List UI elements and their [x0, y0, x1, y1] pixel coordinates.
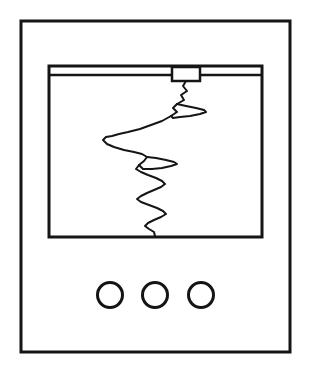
figure-canvas: Black line drawing of a seismograph: a r…	[0, 0, 313, 387]
seismograph-diagram	[0, 0, 313, 387]
control-knob-2[interactable]	[143, 283, 168, 308]
pen-carriage-block[interactable]	[172, 67, 200, 81]
recording-paper-window	[49, 66, 262, 237]
control-knob-3[interactable]	[189, 283, 214, 308]
control-knob-1[interactable]	[98, 283, 123, 308]
